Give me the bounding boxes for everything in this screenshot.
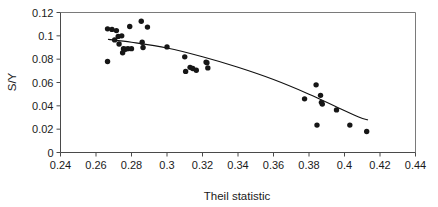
x-tick-label: 0.4 [337, 159, 352, 171]
data-point [140, 45, 145, 50]
x-axis-tick-labels: 0.240.260.280.30.320.340.360.380.40.420.… [50, 159, 426, 171]
trend-line-path [108, 39, 367, 120]
data-point [205, 65, 210, 70]
data-point [129, 46, 134, 51]
x-axis-title: Theil statistic [204, 190, 271, 202]
x-tick-label: 0.3 [159, 159, 174, 171]
x-tick-label: 0.26 [85, 159, 106, 171]
data-point [314, 122, 319, 127]
y-tick-label: 0 [47, 147, 53, 159]
x-tick-label: 0.24 [50, 159, 71, 171]
data-point [318, 93, 323, 98]
plot-frame [61, 13, 416, 153]
data-point [204, 60, 209, 65]
x-axis-ticks [61, 153, 416, 157]
data-point [313, 82, 318, 87]
x-tick-label: 0.34 [227, 159, 248, 171]
x-tick-label: 0.32 [192, 159, 213, 171]
y-tick-label: 0.12 [32, 7, 53, 19]
y-tick-label: 0.08 [32, 53, 53, 65]
x-tick-label: 0.36 [263, 159, 284, 171]
x-tick-label: 0.38 [298, 159, 319, 171]
y-axis-tick-labels: 00.020.040.060.080.10.12 [32, 7, 53, 159]
data-point [320, 101, 325, 106]
y-tick-label: 0.06 [32, 77, 53, 89]
data-point [334, 107, 339, 112]
y-tick-label: 0.1 [38, 30, 53, 42]
chart-canvas: 0.240.260.280.30.320.340.360.380.40.420.… [0, 0, 438, 207]
x-tick-label: 0.28 [121, 159, 142, 171]
data-point [105, 59, 110, 64]
x-tick-label: 0.44 [405, 159, 426, 171]
y-tick-label: 0.02 [32, 123, 53, 135]
trend-line [108, 39, 367, 120]
data-point [364, 129, 369, 134]
scatter-plot-figure: 0.240.260.280.30.320.340.360.380.40.420.… [0, 0, 438, 207]
data-point [139, 19, 144, 24]
data-point [183, 69, 188, 74]
data-point [194, 68, 199, 73]
data-point [116, 41, 121, 46]
data-point [347, 122, 352, 127]
data-point [182, 54, 187, 59]
data-point [164, 44, 169, 49]
data-point [139, 40, 144, 45]
data-point [127, 24, 132, 29]
x-tick-label: 0.42 [369, 159, 390, 171]
y-tick-label: 0.04 [32, 100, 53, 112]
y-axis-title: S/Y [6, 72, 18, 91]
y-axis-ticks [57, 13, 61, 153]
data-points [105, 19, 370, 135]
data-point [114, 28, 119, 33]
data-point [302, 96, 307, 101]
data-point [145, 24, 150, 29]
data-point [119, 33, 124, 38]
